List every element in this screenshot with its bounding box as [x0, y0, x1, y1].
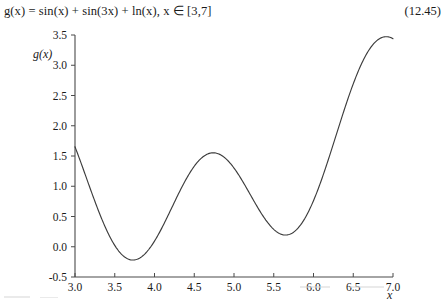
scan-artifact [300, 286, 330, 288]
scan-artifact [4, 296, 30, 298]
plot-area: -0.50.00.51.01.52.02.53.03.5 3.03.54.04.… [0, 18, 447, 302]
y-axis-title: g(x) [33, 47, 52, 61]
x-tick-label: 5.0 [227, 281, 242, 293]
x-tick-label: 3.5 [108, 281, 123, 293]
figure-container: g(x) = sin(x) + sin(3x) + ln(x), x ∈ [3,… [0, 0, 447, 302]
y-axis-ticks [71, 35, 75, 277]
function-curve [75, 37, 393, 260]
function-plot: -0.50.00.51.01.52.02.53.03.5 3.03.54.04.… [0, 18, 447, 302]
axes-group [75, 35, 393, 277]
y-tick-label: 0.0 [53, 241, 68, 253]
scan-artifact [350, 286, 384, 288]
x-tick-label: 3.0 [68, 281, 83, 293]
y-tick-label: -0.5 [49, 271, 67, 283]
scan-artifact [40, 297, 58, 298]
x-tick-label: 4.5 [187, 281, 202, 293]
y-tick-label: 1.5 [53, 150, 68, 162]
y-tick-label: 3.0 [53, 59, 68, 71]
y-tick-label: 2.5 [53, 90, 68, 102]
y-tick-label: 0.5 [53, 211, 68, 223]
x-tick-label: 5.5 [267, 281, 282, 293]
y-axis-tick-labels: -0.50.00.51.01.52.02.53.03.5 [49, 29, 67, 283]
x-axis-title: x [386, 288, 393, 302]
y-tick-label: 1.0 [53, 180, 68, 192]
x-tick-label: 4.0 [147, 281, 162, 293]
y-tick-label: 3.5 [53, 29, 68, 41]
x-axis-ticks [75, 273, 393, 277]
y-tick-label: 2.0 [53, 120, 68, 132]
